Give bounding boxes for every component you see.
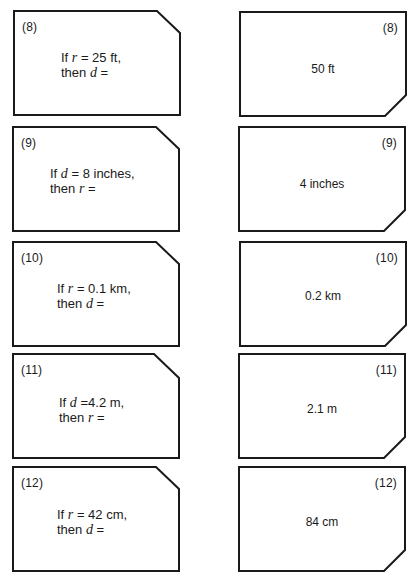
answer-text: 4 inches bbox=[238, 177, 406, 191]
answer-card-11: (11) 2.1 m bbox=[238, 353, 406, 459]
card-number: (12) bbox=[21, 476, 43, 490]
question-card-9: (9) If d = 8 inches, then r = bbox=[12, 126, 180, 232]
question-card-11: (11) If d =4.2 m, then r = bbox=[12, 353, 180, 459]
card-number: (10) bbox=[376, 251, 398, 265]
question-text: If d = 8 inches, then r = bbox=[50, 166, 135, 196]
answer-card-8: (8) 50 ft bbox=[239, 11, 407, 117]
answer-card-9: (9) 4 inches bbox=[238, 126, 406, 232]
question-card-12: (12) If r = 42 cm, then d = bbox=[12, 466, 180, 572]
card-number: (9) bbox=[382, 136, 397, 150]
card-number: (12) bbox=[375, 476, 397, 490]
question-text: If r = 0.1 km, then d = bbox=[57, 281, 131, 311]
question-card-8: (8) If r = 25 ft, then d = bbox=[13, 10, 181, 116]
card-number: (11) bbox=[21, 363, 42, 377]
answer-text: 50 ft bbox=[239, 62, 407, 76]
answer-card-10: (10) 0.2 km bbox=[239, 241, 407, 347]
card-number: (8) bbox=[22, 20, 37, 34]
card-number: (10) bbox=[21, 251, 43, 265]
question-text: If r = 42 cm, then d = bbox=[57, 507, 127, 537]
card-number: (9) bbox=[21, 136, 36, 150]
question-text: If r = 25 ft, then d = bbox=[61, 50, 121, 80]
answer-text: 2.1 m bbox=[238, 402, 406, 416]
card-number: (11) bbox=[376, 363, 397, 377]
answer-text: 0.2 km bbox=[239, 289, 407, 303]
question-card-10: (10) If r = 0.1 km, then d = bbox=[12, 241, 180, 347]
answer-text: 84 cm bbox=[238, 515, 406, 529]
question-text: If d =4.2 m, then r = bbox=[59, 395, 124, 425]
card-number: (8) bbox=[383, 21, 398, 35]
answer-card-12: (12) 84 cm bbox=[238, 466, 406, 572]
